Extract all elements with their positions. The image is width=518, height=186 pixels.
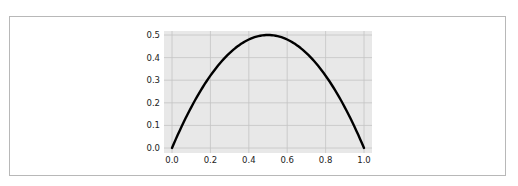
y-tick-label: 0.2 [146, 98, 160, 108]
y-tick-label: 0.1 [146, 120, 160, 130]
x-axis-ticks: 0.00.20.40.60.81.0 [165, 155, 371, 165]
y-tick-label: 0.3 [146, 75, 160, 85]
y-tick-label: 0.4 [146, 53, 160, 63]
x-tick-label: 0.8 [319, 155, 333, 165]
line-chart: 0.00.10.20.30.40.5 0.00.20.40.60.81.0 [0, 0, 518, 186]
x-tick-label: 0.4 [242, 155, 256, 165]
x-tick-label: 0.0 [165, 155, 179, 165]
plot-area [164, 31, 372, 153]
x-tick-label: 0.6 [280, 155, 294, 165]
x-tick-label: 1.0 [357, 155, 371, 165]
x-tick-label: 0.2 [204, 155, 218, 165]
y-tick-label: 0.5 [146, 30, 160, 40]
y-axis-ticks: 0.00.10.20.30.40.5 [146, 30, 160, 153]
y-tick-label: 0.0 [146, 143, 160, 153]
